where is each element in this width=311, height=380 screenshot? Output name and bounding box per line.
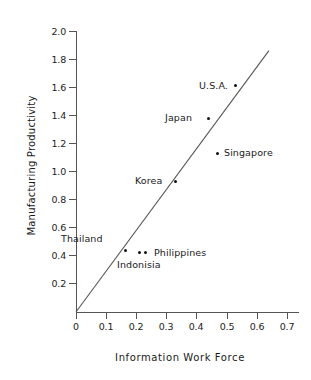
y-tick-label-0.6: 0.6 — [42, 222, 66, 233]
data-point-japan — [207, 117, 210, 120]
point-label-thailand: Thailand — [61, 233, 103, 244]
x-tick-label-0.1: 0.1 — [94, 321, 118, 332]
data-point-indonisia — [138, 251, 141, 254]
x-tick-label-0: 0 — [64, 321, 88, 332]
x-tick-0.4 — [196, 312, 197, 319]
x-tick-0.3 — [166, 312, 167, 319]
y-tick-label-2.0: 2.0 — [42, 26, 66, 37]
x-tick-0.7 — [287, 312, 288, 319]
point-label-japan: Japan — [165, 112, 192, 123]
y-tick-label-1.0: 1.0 — [42, 166, 66, 177]
point-label-usa: U.S.A. — [199, 80, 228, 91]
x-tick-0.2 — [136, 312, 137, 319]
x-tick-label-0.6: 0.6 — [245, 321, 269, 332]
point-label-singapore: Singapore — [224, 147, 273, 158]
y-tick-1.8 — [69, 59, 76, 60]
point-label-korea: Korea — [135, 175, 162, 186]
y-tick-label-1.8: 1.8 — [42, 54, 66, 65]
y-tick-label-1.4: 1.4 — [42, 110, 66, 121]
x-tick-0.1 — [106, 312, 107, 319]
y-tick-label-1.2: 1.2 — [42, 138, 66, 149]
point-label-indonisia: Indonisia — [117, 259, 161, 270]
x-tick-0.6 — [257, 312, 258, 319]
y-axis-title: Manufacturing Productivity — [26, 81, 37, 251]
scatter-chart: 2.0 1.8 1.6 1.4 1.2 1.0 0.8 0.6 0.4 0.2 … — [0, 0, 311, 380]
y-tick-0.2 — [69, 283, 76, 284]
y-tick-label-1.6: 1.6 — [42, 82, 66, 93]
y-axis-line — [76, 31, 77, 313]
x-tick-0 — [76, 312, 77, 319]
data-point-thailand — [124, 249, 127, 252]
y-tick-label-0.2: 0.2 — [42, 278, 66, 289]
data-point-philippines — [144, 251, 147, 254]
y-tick-2.0 — [69, 31, 76, 32]
y-tick-0.4 — [69, 255, 76, 256]
y-tick-1.4 — [69, 115, 76, 116]
x-tick-label-0.2: 0.2 — [124, 321, 148, 332]
y-tick-1.0 — [69, 171, 76, 172]
x-tick-label-0.3: 0.3 — [154, 321, 178, 332]
x-tick-label-0.4: 0.4 — [184, 321, 208, 332]
y-tick-0.6 — [69, 227, 76, 228]
point-label-philippines: Philippines — [154, 247, 206, 258]
x-axis-title: Information Work Force — [60, 352, 300, 363]
y-tick-0.8 — [69, 199, 76, 200]
y-tick-1.6 — [69, 87, 76, 88]
x-axis-line — [76, 312, 299, 313]
data-point-singapore — [216, 152, 219, 155]
x-tick-label-0.5: 0.5 — [215, 321, 239, 332]
y-tick-label-0.4: 0.4 — [42, 250, 66, 261]
x-tick-0.5 — [227, 312, 228, 319]
data-point-usa — [234, 84, 237, 87]
y-tick-1.2 — [69, 143, 76, 144]
y-tick-label-0.8: 0.8 — [42, 194, 66, 205]
data-point-korea — [174, 180, 177, 183]
x-tick-label-0.7: 0.7 — [275, 321, 299, 332]
